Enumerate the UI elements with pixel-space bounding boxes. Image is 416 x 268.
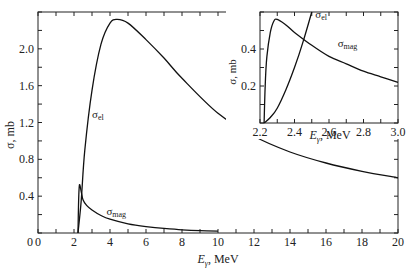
x-tick-label: 14 <box>284 235 296 249</box>
x-tick-label: 20 <box>392 235 404 249</box>
y-tick-label: 0.2 <box>241 79 256 93</box>
y-tick-label: 0.4 <box>19 189 34 203</box>
sigma-mag-label: σmag <box>106 205 126 219</box>
y-tick-label: 0.8 <box>19 152 34 166</box>
y-tick-label: 2.0 <box>19 42 34 56</box>
x-tick-label: 2.2 <box>253 125 268 139</box>
x-tick-label: 18 <box>356 235 368 249</box>
x-tick-label: 6 <box>143 235 149 249</box>
series-mag-line <box>78 185 218 233</box>
x-axis-label: Eγ, MeV <box>196 252 238 268</box>
sigma-el-label: σel <box>92 108 104 122</box>
plot-frame <box>260 12 398 123</box>
x-tick-label: 2 <box>71 235 77 249</box>
chart-canvas: 024681012141618200.40.81.21.62.00Eγ, MeV… <box>0 0 416 268</box>
x-tick-label: 2.4 <box>287 125 302 139</box>
x-tick-label: 3.0 <box>391 125 406 139</box>
inset-plot: 2.22.42.62.83.00.20.4 <box>241 12 406 139</box>
x-tick-label: 2.8 <box>356 125 371 139</box>
y-origin-label: 0 <box>27 235 33 249</box>
y-tick-label: 1.6 <box>19 79 34 93</box>
inset-y-axis-label: σ, mb <box>226 59 238 85</box>
cross-section-chart: 024681012141618200.40.81.21.62.00Eγ, MeV… <box>0 0 416 268</box>
y-axis-label: σ, mb <box>3 121 17 149</box>
y-tick-label: 0.4 <box>241 42 256 56</box>
x-tick-label: 16 <box>320 235 332 249</box>
x-tick-label: 4 <box>107 235 113 249</box>
y-tick-label: 1.2 <box>19 116 34 130</box>
x-tick-label: 8 <box>179 235 185 249</box>
inset-x-axis-label: Eγ, MeV <box>308 128 350 144</box>
x-tick-label: 12 <box>248 235 260 249</box>
x-tick-label: 10 <box>212 235 224 249</box>
x-tick-label: 0 <box>35 235 41 249</box>
